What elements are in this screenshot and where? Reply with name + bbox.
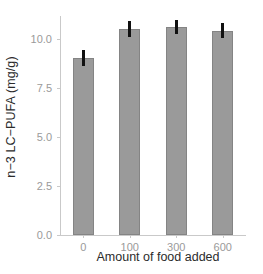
y-axis-tick-label: 5.0 <box>37 131 52 143</box>
bar <box>212 31 233 235</box>
x-axis-title: Amount of food added <box>58 250 258 264</box>
x-axis-line <box>60 235 246 236</box>
plot-area <box>60 16 246 235</box>
error-bar <box>82 50 85 66</box>
x-axis-tick-mark <box>83 235 84 238</box>
y-axis-tick-label: 7.5 <box>37 82 52 94</box>
bar <box>73 58 94 235</box>
y-axis-tick-label: 0.0 <box>37 229 52 241</box>
bar <box>166 27 187 235</box>
x-axis-tick-mark <box>130 235 131 238</box>
y-axis-tick-mark <box>57 235 60 236</box>
x-axis-tick-mark <box>176 235 177 238</box>
y-axis-tick-label: 2.5 <box>37 180 52 192</box>
y-axis-tick-label: 10.0 <box>31 33 52 45</box>
error-bar <box>221 23 224 39</box>
bar-chart: n−3 LC−PUFA (mg/g) 0.02.55.07.510.0 0100… <box>0 0 263 274</box>
x-axis-tick-mark <box>223 235 224 238</box>
error-bar <box>175 20 178 34</box>
bar <box>119 29 140 235</box>
error-bar <box>128 21 131 37</box>
y-axis-title: n−3 LC−PUFA (mg/g) <box>0 0 22 234</box>
